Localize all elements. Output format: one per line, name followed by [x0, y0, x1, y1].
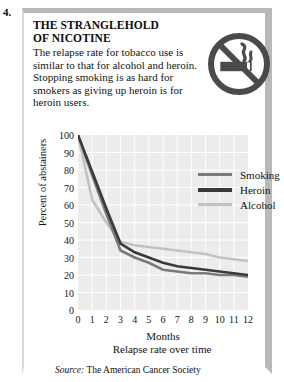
- legend-label-alcohol: Alcohol: [240, 199, 275, 211]
- y-tick-20: 20: [50, 271, 74, 281]
- chart-legend: Smoking Heroin Alcohol: [198, 167, 280, 212]
- y-tick-70: 70: [50, 184, 74, 194]
- source-text: The American Cancer Society: [86, 365, 200, 375]
- info-card: THE STRANGLEHOLD OF NICOTINE The relapse…: [22, 8, 272, 374]
- legend-label-heroin: Heroin: [240, 184, 271, 196]
- x-axis-subtitle: Relapse rate over time: [56, 343, 268, 355]
- y-tick-90: 90: [50, 149, 74, 159]
- source-prefix: Source:: [55, 365, 84, 375]
- y-tick-80: 80: [50, 166, 74, 176]
- no-smoking-icon: [206, 31, 272, 97]
- page-title: THE STRANGLEHOLD OF NICOTINE: [33, 19, 201, 44]
- y-axis-title: Percent of abstainers: [37, 123, 48, 243]
- card-inner: THE STRANGLEHOLD OF NICOTINE The relapse…: [24, 13, 265, 367]
- legend-swatch-heroin: [198, 188, 232, 192]
- y-tick-60: 60: [50, 201, 74, 211]
- headline-line-2: OF NICOTINE: [33, 32, 111, 44]
- y-tick-40: 40: [50, 236, 74, 246]
- page-root: 4. THE STRANGLEHOLD OF NICOTINE The rela…: [0, 0, 284, 382]
- x-tick-12: 12: [240, 315, 256, 325]
- body-text: The relapse rate for tobacco use is simi…: [33, 46, 205, 109]
- item-number: 4.: [3, 6, 11, 18]
- source-note: Source: The American Cancer Society: [55, 365, 201, 375]
- legend-swatch-smoking: [198, 173, 232, 176]
- legend-item-smoking: Smoking: [198, 167, 280, 182]
- plot-area: Smoking Heroin Alcohol: [78, 135, 248, 310]
- y-tick-100: 100: [50, 131, 74, 141]
- y-tick-30: 30: [50, 254, 74, 264]
- legend-swatch-alcohol: [198, 203, 232, 206]
- headline-line-1: THE STRANGLEHOLD: [33, 19, 159, 31]
- y-tick-10: 10: [50, 289, 74, 299]
- y-tick-50: 50: [50, 219, 74, 229]
- legend-item-heroin: Heroin: [198, 182, 280, 197]
- legend-label-smoking: Smoking: [240, 169, 280, 181]
- legend-item-alcohol: Alcohol: [198, 197, 280, 212]
- relapse-rate-chart: Percent of abstainers 100 90 80 70 60 50…: [26, 125, 266, 375]
- x-axis-title: Months: [78, 330, 248, 342]
